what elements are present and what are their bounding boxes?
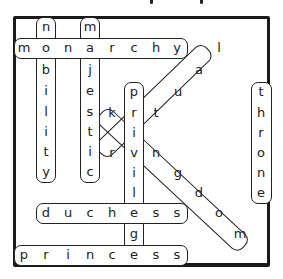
letter: g (168, 163, 188, 183)
letter: e (80, 81, 100, 101)
letter: i (124, 123, 144, 143)
letter: t (80, 122, 100, 142)
letter: y (36, 162, 56, 182)
letter: n (58, 38, 78, 58)
letter: a (80, 38, 100, 58)
letter: r (251, 123, 271, 143)
letter: u (58, 203, 78, 223)
letter: e (124, 245, 144, 265)
letter: r (36, 245, 56, 265)
letter: g (124, 224, 144, 244)
letter: e (251, 183, 271, 203)
letter: r (124, 103, 144, 123)
letter: n (146, 143, 166, 163)
letter: m (80, 17, 100, 37)
letter: e (124, 203, 144, 223)
letter: l (124, 183, 144, 203)
letter: k (102, 103, 122, 123)
letter: c (80, 203, 100, 223)
letter: o (36, 38, 56, 58)
letter: s (146, 203, 166, 223)
letter: t (251, 82, 271, 102)
letter: i (80, 142, 100, 162)
letter: d (189, 183, 209, 203)
letter: y (167, 38, 187, 58)
title-descender (150, 0, 153, 4)
letter: s (80, 102, 100, 122)
letter: c (124, 38, 144, 58)
letter: h (146, 38, 166, 58)
letter: i (58, 245, 78, 265)
letter: s (167, 245, 187, 265)
letter: d (36, 203, 56, 223)
letter: t (36, 142, 56, 162)
letter: o (209, 203, 229, 223)
letter: m (230, 224, 250, 244)
letter: h (102, 203, 122, 223)
letter: n (80, 245, 100, 265)
letter: n (36, 17, 56, 37)
letter: l (36, 102, 56, 122)
letter: m (14, 38, 34, 58)
title-descender (200, 0, 203, 4)
letter: u (168, 82, 188, 102)
letter: s (146, 245, 166, 265)
letter: t (146, 103, 166, 123)
letter: i (124, 163, 144, 183)
letter: i (36, 122, 56, 142)
letter: r (102, 143, 122, 163)
letter: r (102, 38, 122, 58)
letter: j (80, 60, 100, 80)
letter: p (14, 245, 34, 265)
letter: a (189, 60, 209, 80)
letter: n (251, 163, 271, 183)
letter: p (124, 82, 144, 102)
letter: l (209, 38, 229, 58)
letter: c (102, 245, 122, 265)
letter: s (167, 203, 187, 223)
letter: o (251, 143, 271, 163)
letter: i (36, 81, 56, 101)
letter: c (80, 162, 100, 182)
letter: h (251, 103, 271, 123)
letter: b (36, 60, 56, 80)
letter: v (124, 143, 144, 163)
